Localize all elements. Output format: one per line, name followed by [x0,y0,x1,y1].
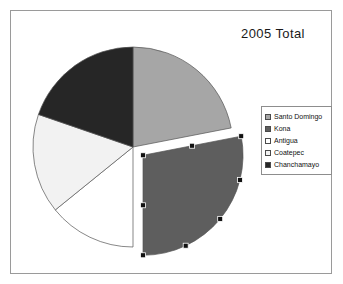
legend-item-antigua[interactable]: Antigua [265,135,328,146]
legend-label-kona: Kona [274,124,290,133]
pie-graphic [12,12,262,262]
legend-label-chanchamayo: Chanchamayo [274,160,319,169]
selection-handle[interactable] [218,216,223,221]
legend-swatch-antigua [265,138,271,144]
legend-swatch-chanchamayo [265,162,271,168]
legend-item-chanchamayo[interactable]: Chanchamayo [265,159,328,170]
caption-fragment [12,277,332,284]
selection-handle[interactable] [141,203,146,208]
legend-item-santo-domingo[interactable]: Santo Domingo [265,111,328,122]
pie-slices-group [33,47,243,255]
selection-handle[interactable] [237,177,242,182]
legend-swatch-santo-domingo [265,114,271,120]
selection-handle[interactable] [190,143,195,148]
legend-label-santo-domingo: Santo Domingo [274,112,322,121]
selection-handle[interactable] [141,253,146,258]
legend-swatch-coatepec [265,150,271,156]
pie-chart-figure: 2005 Total Santo Domingo Kona Antigua Co… [0,0,343,284]
selection-handle[interactable] [141,153,146,158]
selection-handle[interactable] [239,134,244,139]
legend-item-coatepec[interactable]: Coatepec [265,147,328,158]
legend-swatch-kona [265,126,271,132]
pie-slice-santo-domingo[interactable] [133,47,231,147]
legend-label-coatepec: Coatepec [274,148,304,157]
legend-item-kona[interactable]: Kona [265,123,328,134]
pie-slice-kona[interactable] [143,136,243,255]
selection-handle[interactable] [183,243,188,248]
chart-legend: Santo Domingo Kona Antigua Coatepec Chan… [261,106,332,175]
legend-label-antigua: Antigua [274,136,298,145]
